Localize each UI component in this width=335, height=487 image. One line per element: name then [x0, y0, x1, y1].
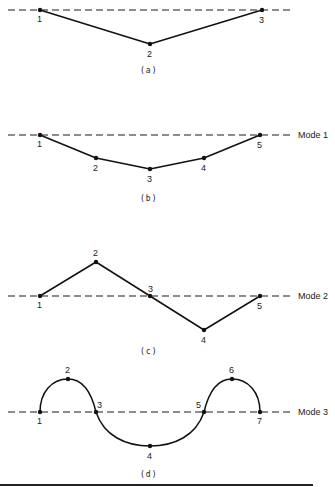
node-label: 4	[201, 335, 206, 345]
node-label: 1	[37, 139, 42, 149]
node-5	[258, 294, 262, 298]
node-label: 3	[148, 284, 153, 294]
node-label: 2	[65, 365, 70, 375]
node-3	[148, 167, 152, 171]
node-label: 5	[196, 400, 201, 410]
node-label: 1	[37, 300, 42, 310]
panel-caption: (b)	[140, 194, 157, 203]
node-label: 4	[201, 163, 206, 173]
node-4	[148, 444, 152, 448]
node-label: 2	[147, 49, 152, 59]
panel-c: Mode 2 1 2 3 4 5 (c)	[8, 248, 328, 356]
mode-label: Mode 1	[298, 130, 328, 140]
node-3	[260, 8, 264, 12]
node-5	[202, 410, 206, 414]
panel-caption: (a)	[140, 66, 157, 75]
node-3	[94, 410, 98, 414]
node-label: 2	[93, 163, 98, 173]
panel-a: 1 2 3 (a)	[8, 8, 293, 75]
node-2	[94, 260, 98, 264]
node-3	[148, 294, 152, 298]
node-1	[38, 133, 42, 137]
vibration-modes-diagram: 1 2 3 (a) Mode 1 1 2 3 4 5 (b) Mode 2 1 …	[0, 0, 335, 487]
panel-caption: (c)	[140, 347, 157, 356]
node-4	[202, 328, 206, 332]
node-label: 3	[259, 15, 264, 25]
node-label: 1	[37, 416, 42, 426]
panel-d: Mode 3 1 2 3 4 5 6 7 (d)	[8, 365, 328, 479]
node-2	[148, 42, 152, 46]
deflected-shape	[40, 379, 260, 446]
node-label: 5	[257, 140, 262, 150]
node-label: 1	[37, 14, 42, 24]
node-2	[94, 156, 98, 160]
node-6	[230, 377, 234, 381]
node-label: 6	[229, 365, 234, 375]
node-label: 2	[93, 248, 98, 258]
deflected-shape	[40, 135, 260, 169]
node-1	[38, 8, 42, 12]
node-label: 7	[257, 416, 262, 426]
mode-label: Mode 2	[298, 291, 328, 301]
mode-label: Mode 3	[298, 407, 328, 417]
panel-b: Mode 1 1 2 3 4 5 (b)	[8, 130, 328, 203]
node-1	[38, 410, 42, 414]
node-2	[66, 377, 70, 381]
node-4	[202, 156, 206, 160]
node-label: 3	[97, 400, 102, 410]
panel-caption: (d)	[140, 470, 157, 479]
node-1	[38, 294, 42, 298]
node-label: 4	[147, 451, 152, 461]
node-7	[258, 410, 262, 414]
node-5	[258, 133, 262, 137]
node-label: 3	[147, 174, 152, 184]
deflected-shape	[40, 10, 262, 44]
node-label: 5	[257, 301, 262, 311]
